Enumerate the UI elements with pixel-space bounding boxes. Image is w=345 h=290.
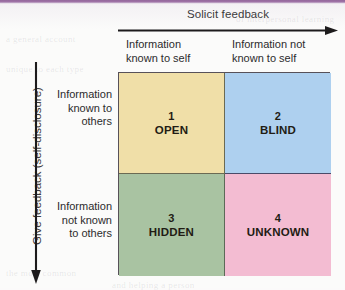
quadrant-hidden[interactable]: 3 HIDDEN xyxy=(119,174,225,276)
background-text-b: unique to each type xyxy=(6,64,84,74)
johari-grid: 1 OPEN 2 BLIND 3 HIDDEN 4 UNKNOWN xyxy=(118,72,330,275)
quadrant-blind-label: BLIND xyxy=(260,123,296,137)
background-text-d: and helping a person xyxy=(112,280,195,290)
quadrant-blind[interactable]: 2 BLIND xyxy=(225,73,331,174)
row-header-2-line-2: not known xyxy=(20,214,112,228)
column-header-2-line-2: known to self xyxy=(232,52,340,66)
row-header-known-to-others: Information known to others xyxy=(20,88,112,129)
quadrant-unknown-label: UNKNOWN xyxy=(247,225,310,239)
horizontal-axis-label: Solicit feedback xyxy=(118,8,338,20)
quadrant-hidden-label: HIDDEN xyxy=(149,225,194,239)
column-header-1-line-1: Information xyxy=(126,38,222,52)
arrow-right-icon xyxy=(118,26,338,35)
quadrant-blind-number: 2 xyxy=(275,109,281,123)
quadrant-unknown[interactable]: 4 UNKNOWN xyxy=(225,174,331,276)
row-header-1-line-2: known to xyxy=(20,102,112,116)
quadrant-hidden-number: 3 xyxy=(168,211,174,225)
row-header-1-line-3: others xyxy=(20,115,112,129)
column-header-2-line-1: Information not xyxy=(232,38,340,52)
column-header-1-line-2: known to self xyxy=(126,52,222,66)
row-header-2-line-3: to others xyxy=(20,227,112,241)
page-top-band xyxy=(0,0,345,4)
column-header-not-known-to-self: Information not known to self xyxy=(232,38,340,65)
row-header-1-line-1: Information xyxy=(20,88,112,102)
column-header-known-to-self: Information known to self xyxy=(126,38,222,65)
row-header-2-line-1: Information xyxy=(20,200,112,214)
row-header-not-known-to-others: Information not known to others xyxy=(20,200,112,241)
background-text-a: a general account xyxy=(6,34,76,44)
quadrant-open[interactable]: 1 OPEN xyxy=(119,73,225,174)
quadrant-open-label: OPEN xyxy=(155,123,188,137)
quadrant-open-number: 1 xyxy=(168,109,174,123)
quadrant-unknown-number: 4 xyxy=(275,211,281,225)
